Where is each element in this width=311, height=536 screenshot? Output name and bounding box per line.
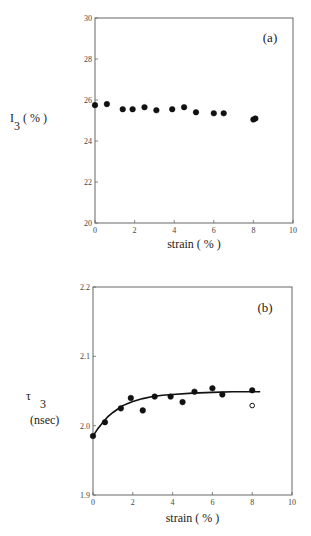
x-tick-label: 0 [93, 226, 97, 235]
y-tick-label: 22 [84, 178, 92, 187]
svg-text:3: 3 [40, 397, 46, 411]
x-tick-label: 6 [212, 226, 216, 235]
plot-frame [95, 18, 293, 223]
data-point [193, 110, 199, 116]
x-tick-label: 2 [133, 226, 137, 235]
fit-curve [93, 392, 260, 436]
x-tick-label: 4 [172, 226, 176, 235]
y-tick-label: 24 [84, 137, 92, 146]
data-point [140, 408, 146, 414]
x-axis-label: strain ( % ) [167, 237, 221, 251]
y-axis-label: I3( % ) [10, 111, 47, 133]
data-point [104, 101, 110, 107]
y-tick-label: 28 [84, 55, 92, 64]
y-tick-label: 20 [84, 219, 92, 228]
data-point [120, 106, 126, 112]
panel-label: (a) [263, 30, 277, 45]
x-tick-label: 8 [251, 226, 255, 235]
x-tick-label: 4 [171, 498, 175, 507]
x-tick-label: 10 [289, 226, 297, 235]
svg-text:3: 3 [14, 119, 20, 133]
data-point [128, 395, 134, 401]
figure: 0246810202224262830strain ( % )I3( % )(a… [0, 0, 311, 536]
y-tick-label: 2.2 [80, 283, 90, 292]
x-tick-label: 2 [131, 498, 135, 507]
data-point [180, 399, 186, 405]
svg-text:(nsec): (nsec) [30, 413, 59, 427]
svg-text:( % ): ( % ) [23, 111, 47, 125]
data-point [142, 104, 148, 110]
x-tick-label: 8 [250, 498, 254, 507]
x-tick-label: 6 [210, 498, 214, 507]
data-point-open [250, 403, 255, 408]
y-tick-label: 26 [84, 96, 92, 105]
data-point [130, 106, 136, 112]
x-tick-label: 0 [91, 498, 95, 507]
y-tick-label: 30 [84, 14, 92, 23]
data-point [154, 107, 160, 113]
data-point [253, 116, 259, 122]
panel-a: 0246810202224262830strain ( % )I3( % )(a… [10, 14, 297, 251]
x-axis-label: strain ( % ) [166, 511, 220, 525]
data-point [169, 106, 175, 112]
data-point [211, 111, 217, 117]
data-point [221, 111, 227, 117]
y-tick-label: 1.9 [80, 491, 90, 500]
svg-text:τ: τ [26, 389, 31, 403]
y-tick-label: 2.1 [80, 352, 90, 361]
y-tick-label: 2.0 [80, 422, 90, 431]
panel-label: (b) [257, 300, 272, 315]
data-point [92, 102, 98, 108]
y-axis-label: τ3(nsec) [26, 389, 59, 427]
x-tick-label: 10 [288, 498, 296, 507]
data-point [181, 104, 187, 110]
panel-b: 02468101.92.02.12.2strain ( % )τ3(nsec)(… [26, 283, 296, 525]
data-point [210, 385, 216, 391]
